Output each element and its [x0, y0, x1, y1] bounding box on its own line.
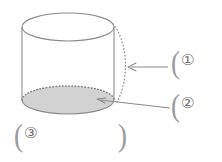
- cylinder-top-base: [22, 13, 114, 41]
- callout-label-1: ( ①: [171, 49, 194, 76]
- cylinder-figure: ( ① ( ② ( ③ ): [0, 0, 222, 162]
- callout-label-2: ( ②: [171, 92, 194, 119]
- circled-digit-three-icon: ③: [24, 126, 37, 141]
- callout-label-3-close: ): [118, 122, 127, 149]
- paren-open-1: (: [171, 47, 180, 79]
- paren-close-3: ): [118, 120, 127, 152]
- paren-open-2: (: [171, 90, 180, 122]
- circled-digit-two-icon: ②: [181, 96, 194, 111]
- circled-digit-one-icon: ①: [181, 53, 194, 68]
- paren-open-3: (: [14, 120, 23, 152]
- lateral-surface-dashed-arc: [113, 24, 125, 104]
- callout-label-3: ( ③: [14, 122, 37, 149]
